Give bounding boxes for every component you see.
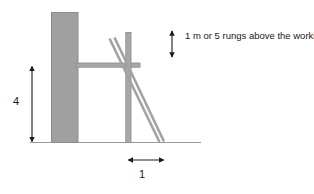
diagram-canvas: 4 1 1 m or 5 rungs above the working pla… [0, 0, 314, 194]
building-wall [52, 13, 79, 143]
ladder-stile-left [110, 39, 160, 143]
ladder-stile-right [115, 38, 165, 142]
callout-label: 1 m or 5 rungs above the working platfor… [185, 29, 313, 43]
height-dimension-label: 4 [13, 95, 19, 109]
scaffold-standard [126, 33, 131, 143]
width-dimension-label: 1 [139, 168, 145, 182]
access-ladder [110, 38, 165, 143]
